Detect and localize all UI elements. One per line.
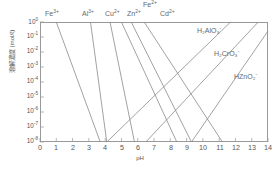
series-line-H2CrO3-	[146, 22, 258, 142]
axis-tick-marks	[40, 22, 268, 142]
x-tick-2: 2	[65, 144, 81, 152]
ann-fe3: Fe3+	[45, 10, 59, 18]
series-line-Cd2+	[144, 22, 222, 142]
ann-zn2: Zn2+	[127, 10, 141, 18]
series-line-Cu2+	[110, 22, 134, 142]
series-line-Fe3+	[56, 22, 100, 142]
series-lines	[56, 22, 268, 142]
x-tick-9: 9	[179, 144, 195, 152]
x-tick-4: 4	[97, 144, 113, 152]
x-tick-11: 11	[212, 144, 228, 152]
x-axis-title: pH	[0, 155, 280, 161]
ann-hzno2: HZnO₂-	[234, 73, 257, 81]
ann-al3: Al3+	[82, 10, 94, 18]
ann-cd2: Cd2+	[160, 10, 175, 18]
x-tick-12: 12	[228, 144, 244, 152]
x-tick-6: 6	[130, 144, 146, 152]
ann-cu2: Cu2+	[105, 10, 120, 18]
x-tick-8: 8	[163, 144, 179, 152]
ann-fe2: Fe2+	[143, 1, 157, 9]
series-line-Al3+	[90, 22, 106, 142]
solubility-ph-chart: 溶解濃度 (mol/ℓ) 100 10-1 10-2 10-3 10-4 10-…	[0, 0, 280, 177]
series-line-HZnO2-	[191, 31, 268, 142]
x-tick-0: 0	[32, 144, 48, 152]
x-tick-14: 14	[260, 144, 276, 152]
x-tick-3: 3	[81, 144, 97, 152]
ann-h2alo3: H₂AlO₃-	[197, 27, 221, 35]
x-tick-7: 7	[146, 144, 162, 152]
series-line-Fe2+	[131, 22, 191, 142]
x-tick-5: 5	[114, 144, 130, 152]
x-tick-10: 10	[195, 144, 211, 152]
x-tick-1: 1	[48, 144, 64, 152]
ann-h2cro3: H₂CrO₃-	[214, 50, 239, 58]
x-tick-13: 13	[244, 144, 260, 152]
